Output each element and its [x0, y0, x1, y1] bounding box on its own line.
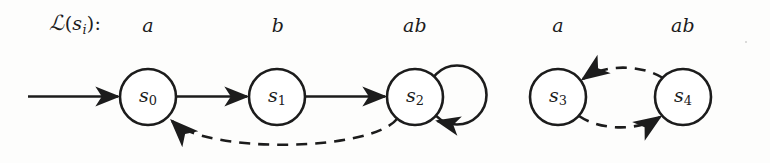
- diagram-canvas: [0, 0, 770, 163]
- caption-colon: :: [94, 12, 101, 34]
- caption-state-symbol: s: [72, 12, 82, 34]
- labelling-function-caption: ℒ(si):: [49, 13, 101, 37]
- ap-label-s0: a: [142, 16, 154, 35]
- state-circle-s1: [249, 69, 305, 125]
- caption-close-paren: ): [87, 12, 95, 34]
- state-circle-s2: [387, 69, 443, 125]
- transition-s4-to-s3-dashed: [583, 68, 663, 79]
- state-circle-s4: [655, 69, 711, 125]
- scan-artifact-speck: [745, 41, 747, 43]
- transition-system-figure: ℒ(si): a b ab a ab s0 s1 s2 s3 s4: [0, 0, 770, 163]
- state-circle-s3: [530, 69, 586, 125]
- ap-label-s4: ab: [671, 16, 695, 35]
- transition-s3-to-s4-dashed: [579, 116, 660, 127]
- state-circle-s0: [120, 69, 176, 125]
- script-l-symbol: ℒ: [49, 11, 65, 35]
- ap-label-s1: b: [272, 16, 284, 35]
- ap-label-s2: ab: [403, 16, 427, 35]
- ap-label-s3: a: [552, 16, 564, 35]
